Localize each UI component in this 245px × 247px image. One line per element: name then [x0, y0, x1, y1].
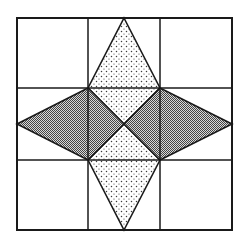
shaded-regions — [17, 18, 232, 230]
geometric-star-figure — [0, 0, 245, 247]
diagram-canvas — [0, 0, 245, 247]
